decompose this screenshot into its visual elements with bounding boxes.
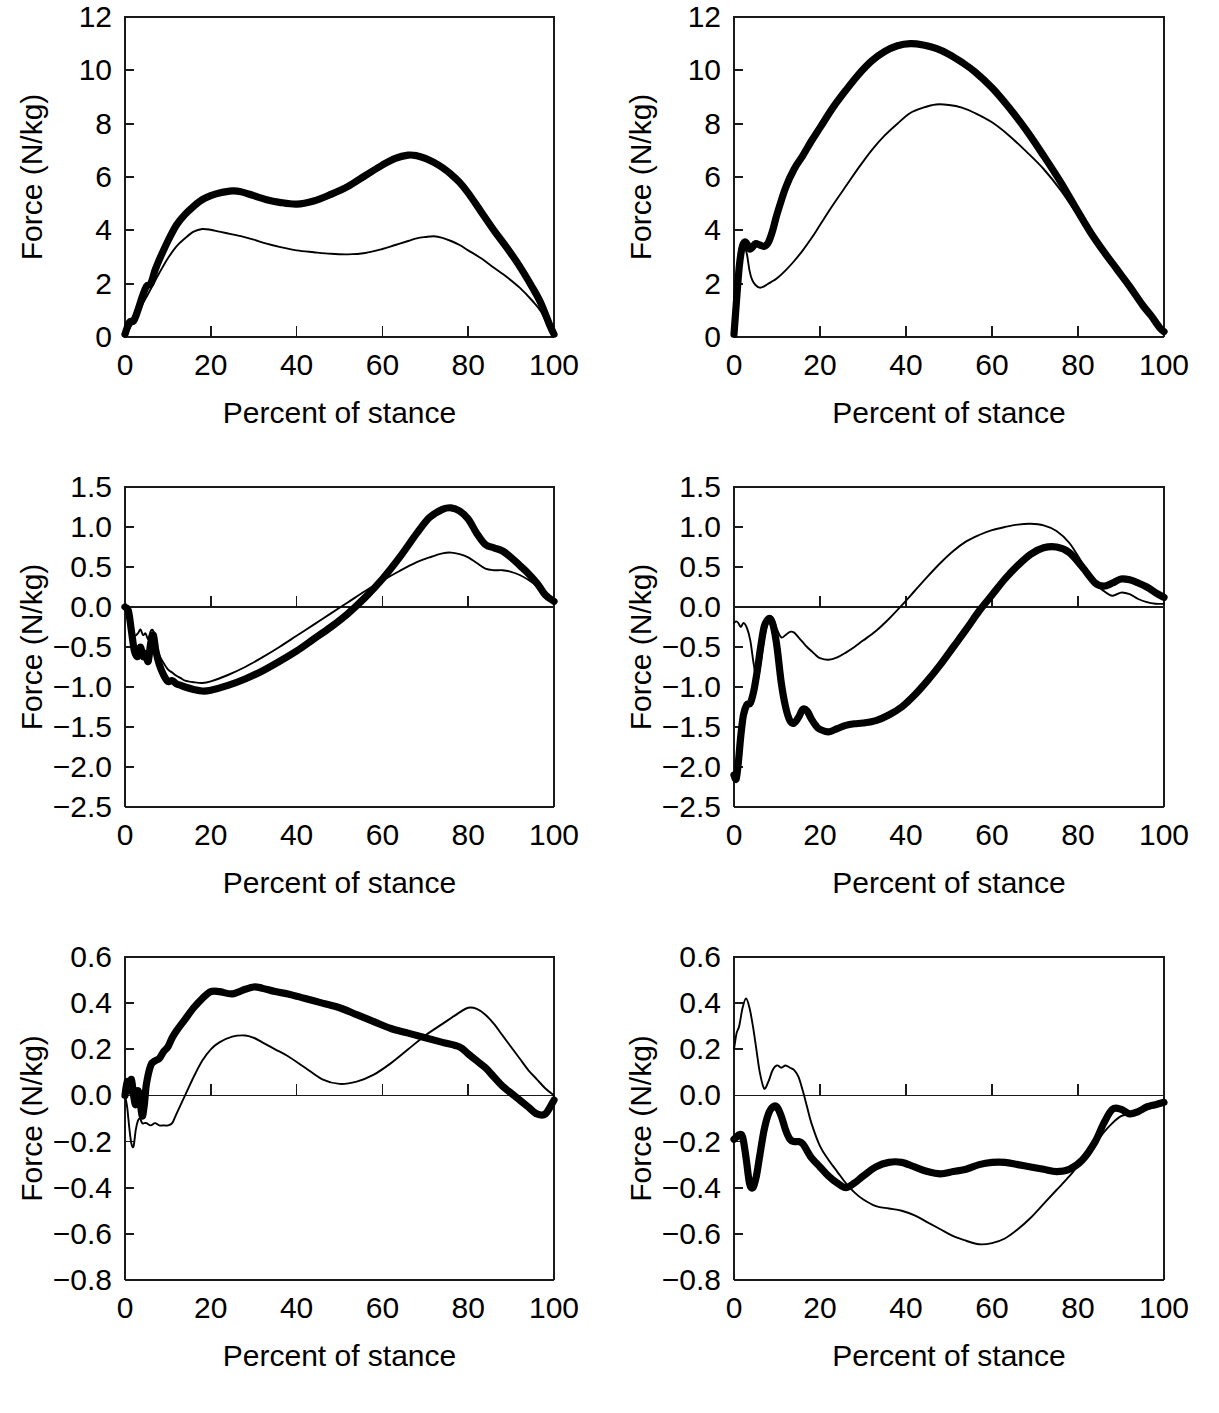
y-axis-title: Force (N/kg) (15, 1035, 48, 1202)
y-axis-tick-label: −0.2 (662, 1125, 721, 1158)
curve-thin-line (125, 229, 554, 336)
x-axis-tick-label: 60 (975, 348, 1008, 381)
x-axis-tick-label: 100 (529, 348, 579, 381)
y-axis-tick-label: −2.5 (662, 790, 721, 823)
x-axis-tick-label: 0 (726, 348, 743, 381)
x-axis-title: Percent of stance (223, 396, 456, 429)
x-axis-tick-label: 20 (803, 818, 836, 851)
plot-frame (125, 487, 554, 807)
x-axis-title: Percent of stance (832, 396, 1065, 429)
y-axis-title: Force (N/kg) (624, 564, 657, 731)
x-axis-tick-label: 40 (889, 348, 922, 381)
y-axis-title: Force (N/kg) (624, 1035, 657, 1202)
y-axis-tick-label: −0.5 (662, 630, 721, 663)
y-axis-tick-label: −1.0 (53, 670, 112, 703)
x-axis-tick-label: 20 (803, 348, 836, 381)
y-axis-tick-label: 0.5 (679, 550, 721, 583)
y-axis-tick-label: 0.0 (679, 590, 721, 623)
x-axis-tick-label: 80 (1061, 1291, 1094, 1324)
y-axis-tick-label: 1.0 (70, 510, 112, 543)
x-axis-title: Percent of stance (832, 866, 1065, 899)
y-axis-tick-label: 6 (704, 160, 721, 193)
x-axis-tick-label: 100 (1139, 818, 1189, 851)
y-axis-tick-label: 0.0 (70, 590, 112, 623)
y-axis-tick-label: 0.2 (679, 1032, 721, 1065)
x-axis-tick-label: 100 (1139, 348, 1189, 381)
y-axis-tick-label: 6 (95, 160, 112, 193)
y-axis-tick-label: 0.0 (679, 1078, 721, 1111)
x-axis-tick-label: 60 (366, 818, 399, 851)
y-axis-tick-label: 1.0 (679, 510, 721, 543)
x-axis-tick-label: 20 (194, 1291, 227, 1324)
panel-top-right-svg: 024681012020406080100Percent of stanceFo… (609, 0, 1219, 470)
x-axis-tick-label: 80 (452, 1291, 485, 1324)
panel-bottom-right-svg: −0.8−0.6−0.4−0.20.00.20.40.6020406080100… (609, 940, 1219, 1413)
curve-thick-line (734, 1102, 1164, 1188)
x-axis-tick-label: 40 (280, 1291, 313, 1324)
y-axis-tick-label: −0.6 (53, 1217, 112, 1250)
x-axis-tick-label: 80 (1061, 818, 1094, 851)
y-axis-tick-label: 0.6 (679, 940, 721, 973)
panel-bottom-left: −0.8−0.6−0.4−0.20.00.20.40.6020406080100… (0, 940, 609, 1413)
y-axis-tick-label: 4 (95, 213, 112, 246)
y-axis-tick-label: −0.5 (53, 630, 112, 663)
y-axis-tick-label: 0 (95, 320, 112, 353)
y-axis-tick-label: −0.4 (53, 1171, 112, 1204)
y-axis-tick-label: 2 (704, 267, 721, 300)
panel-middle-left-svg: −2.5−2.0−1.5−1.0−0.50.00.51.01.502040608… (0, 470, 609, 940)
plot-frame (734, 957, 1164, 1280)
y-axis-tick-label: −1.5 (662, 710, 721, 743)
y-axis-tick-label: −2.5 (53, 790, 112, 823)
panel-top-right: 024681012020406080100Percent of stanceFo… (609, 0, 1219, 470)
panel-top-left: 024681012020406080100Percent of stanceFo… (0, 0, 609, 470)
x-axis-title: Percent of stance (223, 1339, 456, 1372)
y-axis-tick-label: 12 (688, 0, 721, 33)
x-axis-tick-label: 20 (194, 818, 227, 851)
y-axis-tick-label: 1.5 (70, 470, 112, 503)
x-axis-tick-label: 100 (1139, 1291, 1189, 1324)
x-axis-tick-label: 0 (726, 818, 743, 851)
x-axis-tick-label: 20 (194, 348, 227, 381)
y-axis-title: Force (N/kg) (15, 94, 48, 261)
x-axis-tick-label: 40 (280, 348, 313, 381)
x-axis-tick-label: 60 (366, 1291, 399, 1324)
x-axis-tick-label: 40 (280, 818, 313, 851)
y-axis-tick-label: 2 (95, 267, 112, 300)
y-axis-tick-label: 0 (704, 320, 721, 353)
panel-middle-right: −2.5−2.0−1.5−1.0−0.50.00.51.01.502040608… (609, 470, 1219, 940)
panel-top-left-svg: 024681012020406080100Percent of stanceFo… (0, 0, 609, 470)
x-axis-tick-label: 80 (1061, 348, 1094, 381)
x-axis-tick-label: 60 (366, 348, 399, 381)
y-axis-tick-label: −1.5 (53, 710, 112, 743)
panel-middle-left: −2.5−2.0−1.5−1.0−0.50.00.51.01.502040608… (0, 470, 609, 940)
y-axis-title: Force (N/kg) (624, 94, 657, 261)
y-axis-tick-label: 0.2 (70, 1032, 112, 1065)
y-axis-tick-label: −0.4 (662, 1171, 721, 1204)
y-axis-tick-label: 4 (704, 213, 721, 246)
y-axis-tick-label: 8 (704, 107, 721, 140)
y-axis-tick-label: 8 (95, 107, 112, 140)
curve-thick-line (734, 547, 1164, 780)
y-axis-tick-label: −0.6 (662, 1217, 721, 1250)
y-axis-tick-label: 10 (688, 53, 721, 86)
x-axis-tick-label: 0 (117, 818, 134, 851)
x-axis-tick-label: 0 (117, 348, 134, 381)
y-axis-tick-label: 1.5 (679, 470, 721, 503)
x-axis-tick-label: 60 (975, 1291, 1008, 1324)
x-axis-tick-label: 0 (726, 1291, 743, 1324)
y-axis-tick-label: −0.8 (53, 1263, 112, 1296)
x-axis-tick-label: 60 (975, 818, 1008, 851)
x-axis-tick-label: 100 (529, 1291, 579, 1324)
curve-thin-line (734, 104, 1164, 334)
y-axis-tick-label: 0.5 (70, 550, 112, 583)
y-axis-tick-label: 10 (79, 53, 112, 86)
x-axis-tick-label: 20 (803, 1291, 836, 1324)
y-axis-tick-label: 12 (79, 0, 112, 33)
y-axis-tick-label: 0.4 (679, 986, 721, 1019)
curve-thick-line (125, 987, 554, 1116)
y-axis-tick-label: −2.0 (662, 750, 721, 783)
panel-bottom-left-svg: −0.8−0.6−0.4−0.20.00.20.40.6020406080100… (0, 940, 609, 1413)
x-axis-tick-label: 0 (117, 1291, 134, 1324)
y-axis-tick-label: −1.0 (662, 670, 721, 703)
panel-middle-right-svg: −2.5−2.0−1.5−1.0−0.50.00.51.01.502040608… (609, 470, 1219, 940)
